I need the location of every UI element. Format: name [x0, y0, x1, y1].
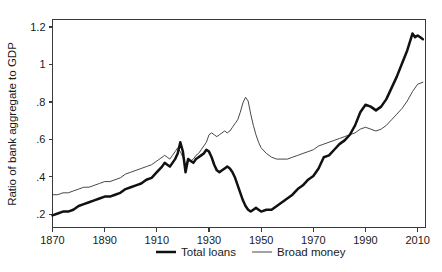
y-tick-label: .8	[36, 96, 45, 108]
x-axis-ticks: 18701890191019301950197019902010	[40, 228, 430, 246]
x-tick-label: 1870	[40, 234, 64, 246]
x-tick-label: 1950	[249, 234, 273, 246]
x-tick-label: 1990	[353, 234, 377, 246]
y-axis-label-text: Ratio of bank aggregate to GDP	[6, 42, 18, 206]
chart-legend: Total loans Broad money	[156, 246, 346, 258]
y-tick-label: 1.2	[30, 21, 45, 33]
ratio-bank-aggregate-to-gdp-chart: .2.4.6.811.2 187018901910193019501970199…	[0, 0, 442, 272]
legend-label-broad-money: Broad money	[277, 246, 346, 258]
series-line-broad-money	[53, 82, 423, 194]
y-tick-label: .6	[36, 133, 45, 145]
y-axis-ticks: .2.4.6.811.2	[30, 21, 52, 220]
series-group	[53, 34, 423, 216]
x-tick-label: 1890	[92, 234, 116, 246]
x-tick-label: 1910	[145, 234, 169, 246]
series-line-total-loans	[53, 34, 423, 216]
x-tick-label: 1930	[197, 234, 221, 246]
x-tick-label: 2010	[405, 234, 429, 246]
legend-label-total-loans: Total loans	[181, 246, 236, 258]
x-tick-label: 1970	[301, 234, 325, 246]
y-tick-label: .2	[36, 208, 45, 220]
chart-figure: .2.4.6.811.2 187018901910193019501970199…	[0, 0, 442, 272]
y-tick-label: 1	[39, 58, 45, 70]
y-tick-label: .4	[36, 171, 45, 183]
y-axis-title: Ratio of bank aggregate to GDP	[6, 42, 18, 206]
